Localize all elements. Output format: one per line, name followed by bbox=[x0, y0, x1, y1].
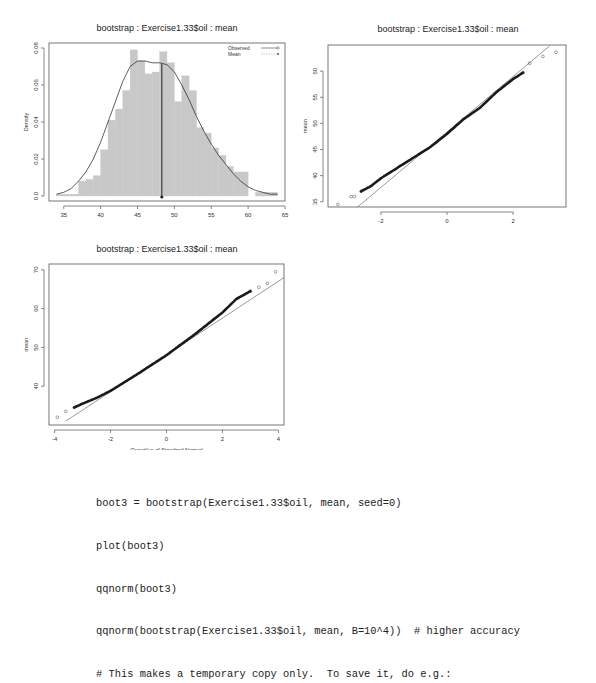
histogram-bar bbox=[182, 76, 189, 196]
y-tick-label: 0.08 bbox=[33, 42, 39, 54]
histogram-bar bbox=[145, 74, 152, 196]
qq-point bbox=[555, 51, 558, 54]
qq-point bbox=[353, 195, 356, 198]
y-tick-label: 0.06 bbox=[33, 79, 39, 91]
x-tick-label: 65 bbox=[282, 212, 289, 218]
code-block: boot3 = bootstrap(Exercise1.33$oil, mean… bbox=[96, 468, 520, 683]
y-tick-label: 35 bbox=[312, 198, 318, 205]
x-tick-label: 45 bbox=[134, 212, 141, 218]
histogram-bar bbox=[123, 91, 130, 196]
y-tick-label: 40 bbox=[312, 172, 318, 179]
qq-point bbox=[64, 410, 67, 413]
x-tick-label: -2 bbox=[378, 218, 384, 224]
code-line: plot(boot3) bbox=[96, 539, 520, 553]
y-tick-label: 50 bbox=[33, 343, 39, 350]
qq-point-cloud bbox=[74, 291, 250, 407]
y-tick-label: 45 bbox=[312, 146, 318, 153]
histogram-panel: bootstrap : Exercise1.33$oil : mean 3540… bbox=[0, 0, 300, 225]
y-tick-label: 70 bbox=[33, 266, 39, 273]
qq-point bbox=[266, 282, 269, 285]
qq-point bbox=[56, 416, 59, 419]
histogram-bars bbox=[56, 50, 277, 196]
y-tick-label: 50 bbox=[312, 119, 318, 126]
histogram-bar bbox=[71, 194, 78, 196]
code-line: boot3 = bootstrap(Exercise1.33$oil, mean… bbox=[96, 496, 520, 510]
x-tick-label: 0 bbox=[165, 436, 169, 442]
qq-point-cloud bbox=[361, 73, 523, 192]
x-tick-label: -4 bbox=[52, 436, 58, 442]
histogram-bar bbox=[130, 50, 137, 196]
histogram-bar bbox=[79, 181, 86, 196]
histogram-bar bbox=[115, 109, 122, 196]
qq-point bbox=[541, 55, 544, 58]
y-tick-label: 40 bbox=[33, 382, 39, 389]
x-tick-label: 0 bbox=[445, 218, 449, 224]
qqplot-bottom-panel: bootstrap : Exercise1.33$oil : mean -4-2… bbox=[0, 230, 300, 450]
qq-point bbox=[257, 286, 260, 289]
histogram-bar bbox=[101, 150, 108, 196]
qq-point bbox=[274, 270, 277, 273]
histogram-bar bbox=[152, 72, 159, 196]
histogram-bar bbox=[160, 52, 167, 196]
x-tick-label: 60 bbox=[245, 212, 252, 218]
histogram-bar bbox=[56, 194, 63, 196]
x-tick-label: 35 bbox=[60, 212, 67, 218]
qqplot-top-plot: -202354045505560Quantiles of Standard No… bbox=[300, 0, 596, 225]
y-tick-label: 60 bbox=[33, 305, 39, 312]
qq-point bbox=[350, 195, 353, 198]
histogram-bar bbox=[189, 91, 196, 196]
legend: ObservedMean bbox=[228, 45, 279, 57]
histogram-bar bbox=[219, 155, 226, 196]
qq-points bbox=[56, 270, 277, 418]
histogram-bar bbox=[93, 176, 100, 196]
plot-frame bbox=[328, 45, 566, 207]
y-tick-label: 60 bbox=[312, 67, 318, 74]
histogram-bar bbox=[226, 166, 233, 196]
plot-frame bbox=[49, 264, 284, 425]
x-tick-label: 2 bbox=[511, 218, 515, 224]
y-axis-label: mean bbox=[23, 338, 29, 352]
histogram-bar bbox=[233, 172, 240, 196]
histogram-bar bbox=[64, 194, 71, 196]
x-tick-label: 2 bbox=[221, 436, 225, 442]
x-axis-label: mean bbox=[160, 223, 174, 225]
histogram-bar bbox=[108, 120, 115, 196]
histogram-bar bbox=[256, 192, 263, 196]
qqplot-bottom-plot: -4-202440506070Quantiles of Standard Nor… bbox=[0, 230, 300, 450]
y-axis-label: mean bbox=[302, 119, 308, 133]
x-tick-label: 55 bbox=[208, 212, 215, 218]
qq-points bbox=[337, 51, 558, 206]
y-tick-label: 55 bbox=[312, 93, 318, 100]
legend-mean: Mean bbox=[228, 51, 241, 57]
y-tick-label: 0.02 bbox=[33, 153, 39, 165]
x-tick-label: 4 bbox=[277, 436, 281, 442]
histogram-bar bbox=[174, 102, 181, 196]
x-tick-label: -2 bbox=[108, 436, 114, 442]
x-tick-label: 40 bbox=[97, 212, 104, 218]
histogram-bar bbox=[167, 63, 174, 196]
histogram-bar bbox=[138, 61, 145, 196]
code-line: qqnorm(bootstrap(Exercise1.33$oil, mean,… bbox=[96, 624, 520, 638]
histogram-bar bbox=[211, 148, 218, 196]
mean-marker bbox=[160, 195, 163, 198]
histogram-bar bbox=[197, 128, 204, 196]
qq-point bbox=[337, 203, 340, 206]
y-axis-label: Density bbox=[23, 113, 29, 132]
code-line: # This makes a temporary copy only. To s… bbox=[96, 667, 520, 681]
y-tick-label: 0.04 bbox=[33, 116, 39, 128]
code-line: qqnorm(boot3) bbox=[96, 582, 520, 596]
qqplot-top-panel: bootstrap : Exercise1.33$oil : mean -202… bbox=[300, 0, 596, 225]
x-axis-label: Quantiles of Standard Normal bbox=[130, 447, 202, 450]
x-tick-label: 50 bbox=[171, 212, 178, 218]
histogram-plot: 354045505560650.00.020.040.060.08meanDen… bbox=[0, 0, 300, 225]
y-tick-label: 0.0 bbox=[33, 191, 39, 200]
histogram-bar bbox=[86, 179, 93, 196]
